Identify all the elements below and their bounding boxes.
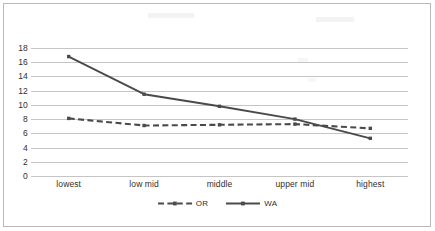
data-point-or-1 <box>142 124 145 127</box>
chart-legend: ORWA <box>0 199 435 208</box>
scan-artifact <box>316 17 354 22</box>
legend-item-or[interactable]: OR <box>158 199 208 208</box>
y-tick-label: 6 <box>23 129 28 138</box>
y-tick-label: 14 <box>18 72 28 81</box>
x-tick-label: highest <box>356 180 384 189</box>
x-tick-label: middle <box>207 180 233 189</box>
legend-label: WA <box>264 200 277 208</box>
series-layer <box>31 48 408 176</box>
chart-figure: 024681012141618 lowestlow midmiddleupper… <box>0 0 435 231</box>
legend-item-wa[interactable]: WA <box>226 199 277 208</box>
y-tick-label: 0 <box>23 172 28 181</box>
y-tick-label: 10 <box>18 101 28 110</box>
data-point-or-4 <box>369 127 372 130</box>
x-tick-label: lowest <box>56 180 81 189</box>
x-axis: lowestlow midmiddleupper midhighest <box>31 180 408 194</box>
data-point-wa-2 <box>218 105 221 108</box>
x-tick-label: upper mid <box>276 180 315 189</box>
legend-swatch-wa <box>226 199 260 208</box>
y-tick-label: 18 <box>18 44 28 53</box>
scan-artifact <box>148 13 194 18</box>
y-tick-label: 4 <box>23 143 28 152</box>
y-axis: 024681012141618 <box>8 48 28 176</box>
data-point-wa-4 <box>369 137 372 140</box>
x-tick-label: low mid <box>129 180 159 189</box>
legend-label: OR <box>196 200 208 208</box>
y-tick-label: 12 <box>18 86 28 95</box>
data-point-wa-3 <box>293 117 296 120</box>
data-point-wa-0 <box>67 55 70 58</box>
data-point-wa-1 <box>142 93 145 96</box>
data-point-or-3 <box>293 122 296 125</box>
gridline <box>31 176 408 177</box>
y-tick-label: 8 <box>23 115 28 124</box>
y-tick-label: 2 <box>23 158 28 167</box>
y-tick-label: 16 <box>18 58 28 67</box>
data-point-or-0 <box>67 117 70 120</box>
data-point-or-2 <box>218 123 221 126</box>
plot-area <box>31 48 408 176</box>
legend-swatch-or <box>158 199 192 208</box>
